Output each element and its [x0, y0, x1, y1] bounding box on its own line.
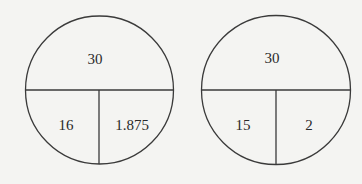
- right-part-whole-circle: [202, 16, 351, 166]
- left-top-value: 30: [88, 51, 103, 68]
- diagram-stage: 30 16 1.875 30 15 2: [0, 0, 362, 184]
- left-bottom-right-value: 1.875: [115, 117, 149, 134]
- right-bottom-left-value: 15: [236, 117, 251, 134]
- left-bottom-left-value: 16: [59, 117, 74, 134]
- right-top-value: 30: [265, 50, 280, 67]
- left-part-whole-circle: [26, 16, 174, 164]
- diagram-shapes: [0, 0, 362, 184]
- right-bottom-right-value: 2: [305, 117, 313, 134]
